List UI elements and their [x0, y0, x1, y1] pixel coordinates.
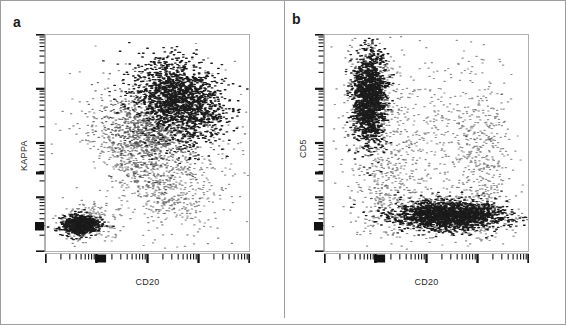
panel-b-scatter-dots	[325, 35, 528, 251]
panel-b-plot-area	[324, 34, 529, 252]
panel-a-y-axis-ticks	[31, 34, 45, 252]
panel-a-plot-area	[45, 34, 250, 252]
panel-b-y-axis-label: CD5	[298, 139, 308, 158]
panel-a-x-axis-label: CD20	[45, 277, 250, 287]
figure-container: a CD20 KAPPA b CD20 CD5	[0, 0, 566, 325]
figure-bottom-margin	[1, 318, 566, 324]
panel-b-x-axis-ticks	[324, 253, 529, 266]
panel-a: a CD20 KAPPA	[1, 1, 284, 324]
panel-a-x-axis-ticks	[45, 253, 250, 266]
panel-b-letter: b	[292, 12, 301, 26]
panel-b-y-axis-ticks	[310, 34, 324, 252]
panel-a-y-axis-label: KAPPA	[19, 140, 29, 171]
panel-b-x-axis-label: CD20	[324, 277, 529, 287]
panel-a-letter: a	[13, 15, 21, 29]
panel-b: b CD20 CD5	[284, 1, 566, 324]
panel-a-scatter-dots	[46, 35, 249, 251]
